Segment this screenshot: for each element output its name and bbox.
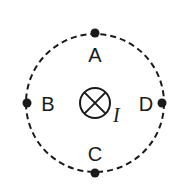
into-page-current-icon <box>80 88 110 118</box>
diagram-canvas: A B C D I <box>0 0 187 192</box>
point-b-dot <box>23 99 32 108</box>
point-c-dot <box>91 169 100 178</box>
point-a-dot <box>91 29 100 38</box>
point-b-label: B <box>41 93 54 115</box>
point-d-label: D <box>139 93 153 115</box>
point-d-dot <box>158 99 167 108</box>
point-a-label: A <box>88 44 102 66</box>
current-label: I <box>112 104 121 126</box>
point-c-label: C <box>88 143 102 165</box>
